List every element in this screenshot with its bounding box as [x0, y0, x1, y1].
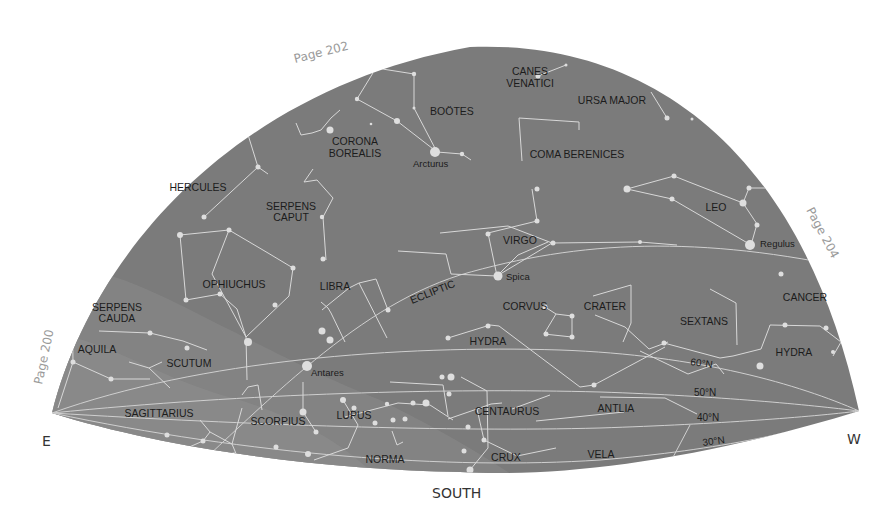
page-ref-right[interactable]: Page 204: [803, 205, 842, 261]
label-centaurus: CENTAURUS: [475, 405, 540, 417]
star-regulus: Regulus: [760, 238, 795, 249]
star-chart: CANES VENATICI BOÖTES URSA MAJOR CORONA …: [0, 0, 887, 527]
label-hydra-2: HYDRA: [776, 346, 813, 358]
label-vela: VELA: [588, 448, 615, 460]
label-scorpius: SCORPIUS: [251, 415, 306, 427]
label-corona-1: CORONA: [332, 135, 378, 147]
page-ref-top[interactable]: Page 202: [292, 39, 350, 66]
label-crater: CRATER: [584, 300, 627, 312]
label-hercules: HERCULES: [169, 181, 226, 193]
label-norma: NORMA: [365, 453, 404, 465]
label-corona-2: BOREALIS: [329, 147, 382, 159]
label-bootes: BOÖTES: [430, 105, 474, 117]
label-serpens-cauda-2: CAUDA: [99, 312, 136, 324]
star-antares: Antares: [311, 367, 344, 378]
direction-west: W: [847, 431, 861, 447]
label-ophiuchus: OPHIUCHUS: [202, 278, 265, 290]
label-libra: LIBRA: [320, 280, 350, 292]
star-arcturus: Arcturus: [413, 158, 449, 169]
label-canes-1: CANES: [512, 65, 548, 77]
label-coma: COMA BERENICES: [530, 148, 625, 160]
label-antlia: ANTLIA: [598, 402, 635, 414]
star-spica: Spica: [506, 271, 530, 282]
label-hydra-1: HYDRA: [470, 335, 507, 347]
label-lupus: LUPUS: [336, 409, 371, 421]
direction-east: E: [42, 433, 51, 449]
lat-label-50: 50°N: [694, 387, 716, 398]
label-scutum: SCUTUM: [167, 357, 212, 369]
label-corvus: CORVUS: [503, 300, 548, 312]
label-crux: CRUX: [491, 451, 521, 463]
label-ursa-major: URSA MAJOR: [578, 94, 647, 106]
direction-south: SOUTH: [432, 485, 481, 501]
label-cancer: CANCER: [783, 291, 828, 303]
label-aquila: AQUILA: [78, 343, 117, 355]
page-ref-left[interactable]: Page 200: [31, 328, 56, 385]
label-leo: LEO: [705, 201, 726, 213]
label-canes-2: VENATICI: [506, 77, 554, 89]
lat-label-40: 40°N: [697, 412, 719, 423]
label-sextans: SEXTANS: [680, 315, 728, 327]
label-serpens-caput-2: CAPUT: [273, 211, 309, 223]
label-virgo: VIRGO: [503, 234, 537, 246]
label-sagittarius: SAGITTARIUS: [124, 407, 193, 419]
